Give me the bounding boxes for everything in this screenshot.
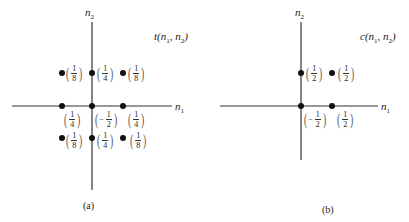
paren: )	[351, 66, 354, 82]
panel-a-n1-label: n1	[175, 100, 184, 115]
numerator: 1	[71, 131, 77, 141]
paren: (	[337, 112, 340, 128]
value-label: (14)	[63, 110, 82, 129]
panel-a-point	[59, 103, 65, 109]
paren: )	[392, 30, 396, 42]
paren: (	[304, 112, 307, 128]
panel-b-point	[298, 103, 304, 109]
denominator: 2	[316, 120, 320, 129]
axis-sub: 2	[301, 13, 305, 21]
fraction: 12	[343, 64, 349, 83]
fraction: 14	[133, 110, 139, 129]
denominator: 4	[70, 120, 74, 129]
minus-sign: −	[99, 116, 104, 124]
panel-b-title: c(n1, n2)	[360, 30, 396, 45]
fraction: 12	[106, 110, 112, 129]
fraction: 18	[135, 131, 141, 150]
panel-b-n2-label: n2	[295, 6, 304, 21]
axis-sub: 1	[181, 107, 185, 115]
value-label: (14)	[96, 131, 115, 150]
paren: )	[184, 30, 188, 42]
denominator: 4	[103, 74, 107, 83]
panel-a-point	[89, 70, 95, 76]
numerator: 1	[315, 110, 321, 120]
paren: )	[143, 133, 146, 149]
paren: )	[110, 133, 113, 149]
paren: (	[128, 66, 131, 82]
value-label: (−12)	[94, 110, 118, 129]
numerator: 1	[133, 110, 139, 120]
value-label: (14)	[96, 64, 115, 83]
denominator: 2	[344, 74, 348, 83]
value-label: (12)	[336, 110, 355, 129]
paren: )	[77, 112, 80, 128]
paren: (	[97, 66, 100, 82]
numerator: 1	[69, 110, 75, 120]
denominator: 4	[103, 141, 107, 150]
paren: )	[79, 133, 82, 149]
value-label: (18)	[65, 131, 84, 150]
fraction: 12	[311, 64, 317, 83]
numerator: 1	[71, 64, 77, 74]
fraction: 12	[315, 110, 321, 129]
denominator: 8	[134, 74, 138, 83]
value-label: (12)	[337, 64, 356, 83]
denominator: 2	[312, 74, 316, 83]
paren: )	[323, 112, 326, 128]
numerator: 1	[311, 64, 317, 74]
fraction: 18	[71, 131, 77, 150]
value-label: (14)	[127, 110, 146, 129]
panel-a-point	[120, 70, 126, 76]
panel-b-point	[329, 103, 335, 109]
paren: )	[110, 66, 113, 82]
numerator: 1	[342, 110, 348, 120]
paren: )	[141, 112, 144, 128]
denominator: 8	[72, 74, 76, 83]
fraction: 12	[342, 110, 348, 129]
paren: (	[66, 66, 69, 82]
numerator: 1	[102, 131, 108, 141]
numerator: 1	[133, 64, 139, 74]
panel-a-point	[120, 103, 126, 109]
paren: )	[79, 66, 82, 82]
paren: (	[130, 133, 133, 149]
denominator: 2	[343, 120, 347, 129]
panel-b-n1-label: n1	[381, 100, 390, 115]
paren: (	[95, 112, 98, 128]
denominator: 8	[72, 141, 76, 150]
paren: (	[306, 66, 309, 82]
paren: (	[64, 112, 67, 128]
value-label: (18)	[127, 64, 146, 83]
value-label: (12)	[305, 64, 324, 83]
paren: )	[114, 112, 117, 128]
axis-sub: 1	[387, 107, 391, 115]
value-label: (18)	[129, 131, 148, 150]
paren: (	[66, 133, 69, 149]
paren: (	[97, 133, 100, 149]
fraction: 14	[102, 64, 108, 83]
numerator: 1	[343, 64, 349, 74]
paren: )	[350, 112, 353, 128]
panel-a-point	[89, 103, 95, 109]
numerator: 1	[135, 131, 141, 141]
numerator: 1	[106, 110, 112, 120]
minus-sign: −	[308, 116, 313, 124]
axis-sub: 2	[91, 13, 95, 21]
panel-a-point	[120, 135, 126, 141]
panel-b-point	[298, 70, 304, 76]
panel-a-caption: (a)	[83, 200, 94, 211]
denominator: 2	[107, 120, 111, 129]
denominator: 4	[134, 120, 138, 129]
panel-a-n2-label: n2	[85, 6, 94, 21]
denominator: 8	[136, 141, 140, 150]
panel-b-caption: (b)	[322, 204, 334, 215]
paren: (	[128, 112, 131, 128]
numerator: 1	[102, 64, 108, 74]
fraction: 14	[102, 131, 108, 150]
value-label: (−12)	[303, 110, 327, 129]
panel-a-title: t(n1, n2)	[154, 30, 188, 45]
panel-a-point	[89, 135, 95, 141]
fraction: 14	[69, 110, 75, 129]
paren: (	[338, 66, 341, 82]
value-label: (18)	[65, 64, 84, 83]
